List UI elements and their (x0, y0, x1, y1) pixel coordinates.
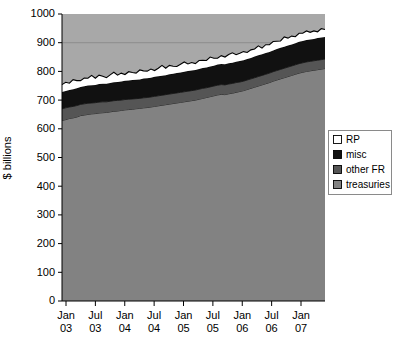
legend-swatch-other-fr (334, 166, 342, 174)
legend-label-other-fr: other FR (346, 164, 385, 175)
legend-label-treasuries: treasuries (346, 179, 390, 190)
y-tick-label: 200 (37, 237, 55, 249)
y-tick-label: 800 (37, 65, 55, 77)
x-tick-label-month: Jan (57, 309, 75, 321)
x-tick-label-month: Jul (88, 309, 102, 321)
x-tick-label-year: 03 (89, 322, 101, 334)
chart-svg: 01002003004005006007008009001000 Jan03Ju… (0, 0, 394, 347)
x-tick-label-month: Jan (175, 309, 193, 321)
x-tick-label-month: Jan (116, 309, 134, 321)
y-tick-label: 300 (37, 208, 55, 220)
x-tick-label-year: 04 (148, 322, 160, 334)
y-axis-title: $ billions (1, 136, 13, 179)
y-tick-label: 1000 (31, 7, 55, 19)
x-tick-label-month: Jul (265, 309, 279, 321)
x-tick-label-month: Jul (147, 309, 161, 321)
stacked-area-chart: 01002003004005006007008009001000 Jan03Ju… (0, 0, 394, 347)
legend-label-misc: misc (346, 149, 367, 160)
legend-label-rp: RP (346, 134, 360, 145)
chart-legend: RPmiscother FRtreasuries (329, 131, 392, 195)
y-tick-label: 500 (37, 151, 55, 163)
y-tick-label: 400 (37, 180, 55, 192)
y-tick-label: 600 (37, 122, 55, 134)
legend-swatch-treasuries (334, 181, 342, 189)
y-axis-ticks: 01002003004005006007008009001000 (31, 7, 62, 306)
x-tick-label-month: Jul (206, 309, 220, 321)
x-axis-ticks: Jan03Jul03Jan04Jul04Jan05Jul05Jan06Jul06… (57, 301, 310, 334)
y-tick-label: 700 (37, 94, 55, 106)
x-tick-label-month: Jan (233, 309, 251, 321)
x-tick-label-year: 06 (266, 322, 278, 334)
y-tick-label: 900 (37, 36, 55, 48)
legend-swatch-rp (334, 136, 342, 144)
y-tick-label: 0 (49, 294, 55, 306)
x-tick-label-year: 05 (177, 322, 189, 334)
legend-swatch-misc (334, 151, 342, 159)
x-tick-label-year: 07 (295, 322, 307, 334)
x-tick-label-year: 06 (236, 322, 248, 334)
x-tick-label-year: 05 (207, 322, 219, 334)
y-tick-label: 100 (37, 266, 55, 278)
x-tick-label-year: 04 (119, 322, 131, 334)
x-tick-label-month: Jan (292, 309, 310, 321)
x-tick-label-year: 03 (60, 322, 72, 334)
